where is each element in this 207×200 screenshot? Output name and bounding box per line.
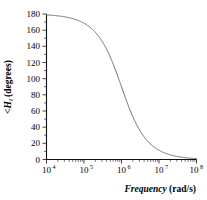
x-axis-title-italic: Frequency [123,184,167,194]
y-tick-label: 120 [27,58,41,68]
svg-text:<Hl (degrees): <Hl (degrees) [3,60,14,114]
x-axis-title: Frequency (rad/s) [123,184,196,195]
bode-phase-plot: 0 20 40 60 80 100 120 140 160 180 10 4 1… [0,0,207,200]
y-tick-label: 40 [31,122,41,132]
x-axis-title-plain: (rad/s) [167,184,196,195]
y-tick-label: 180 [27,9,41,19]
x-tick-mantissa: 10 [155,165,165,175]
x-tick-mantissa: 10 [117,165,127,175]
x-tick-exponent: 7 [165,164,168,170]
y-tick-label: 0 [36,155,41,165]
x-tick-exponent: 5 [90,164,93,170]
chart-figure: 0 20 40 60 80 100 120 140 160 180 10 4 1… [0,0,207,200]
x-tick-mantissa: 10 [80,165,90,175]
y-tick-label: 160 [27,25,41,35]
x-tick-label-group: 10 7 [155,164,169,175]
x-tick-label-group: 10 8 [190,164,204,175]
x-tick-mantissa: 10 [190,165,200,175]
y-axis-tick-labels: 0 20 40 60 80 100 120 140 160 180 [27,9,41,165]
x-tick-exponent: 8 [200,164,203,170]
y-tick-label: 100 [27,74,41,84]
y-tick-label: 140 [27,41,41,51]
y-tick-label: 60 [31,106,41,116]
y-tick-label: 80 [31,90,41,100]
y-axis-title-units: (degrees) [3,60,14,99]
y-axis-title-symbol: <H [3,100,13,113]
x-tick-label-group: 10 5 [80,164,94,175]
x-tick-mantissa: 10 [42,165,52,175]
x-tick-exponent: 4 [53,164,56,170]
phase-response-curve [47,15,197,159]
x-axis-tick-labels: 10 4 10 5 10 6 10 7 10 8 [42,164,203,175]
x-tick-label-group: 10 6 [117,164,131,175]
x-tick-exponent: 6 [128,164,131,170]
svg-text:Frequency (rad/s): Frequency (rad/s) [123,184,196,195]
y-axis-title: <Hl (degrees) [3,60,14,114]
x-tick-label-group: 10 4 [42,164,56,175]
y-tick-label: 20 [31,138,41,148]
